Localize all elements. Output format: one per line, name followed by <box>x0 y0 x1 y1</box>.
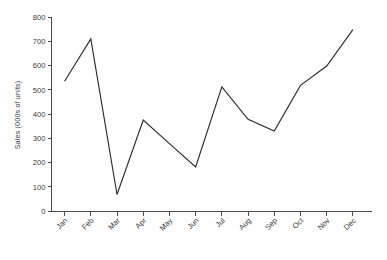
y-tick-label: 200 <box>33 158 46 167</box>
chart-canvas: Sales (000s of units) 010020030040050060… <box>0 0 387 260</box>
y-tick-label: 800 <box>33 13 46 22</box>
y-tick-label: 700 <box>33 37 46 46</box>
y-tick-label: 300 <box>33 134 46 143</box>
y-tick-label: 400 <box>33 110 46 119</box>
y-axis-title: Sales (000s of units) <box>13 81 22 150</box>
y-tick-label: 100 <box>33 183 46 192</box>
y-tick-label: 500 <box>33 86 46 95</box>
line-chart: Sales (000s of units) 010020030040050060… <box>0 0 387 260</box>
y-tick-label: 600 <box>33 61 46 70</box>
y-tick-label: 0 <box>41 207 45 216</box>
